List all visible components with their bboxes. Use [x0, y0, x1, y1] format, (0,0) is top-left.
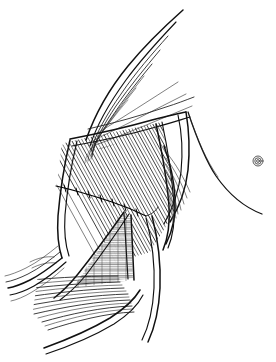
- anatomical-line-drawing: [0, 0, 276, 362]
- figure-root: [0, 0, 276, 362]
